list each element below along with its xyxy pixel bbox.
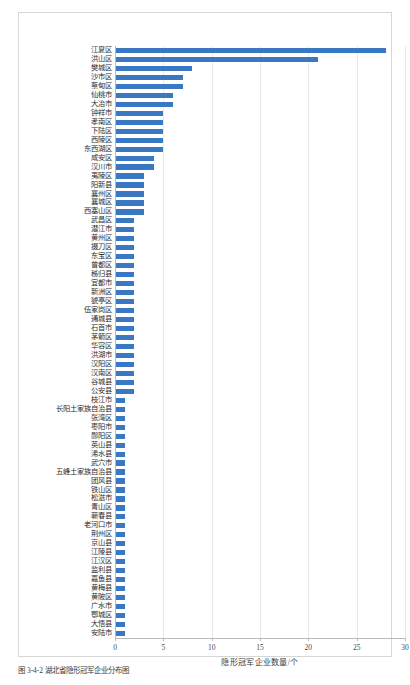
x-tick-label: 0 bbox=[113, 643, 117, 652]
bar bbox=[115, 200, 144, 205]
bar-row: 青山区 bbox=[115, 503, 405, 512]
bar bbox=[115, 604, 125, 609]
bar bbox=[115, 129, 163, 134]
figure-page: 江夏区洪山区樊城区沙市区蔡甸区仙桃市大冶市钟祥市孝南区下陆区西陵区东西湖区咸安区… bbox=[0, 0, 410, 685]
bar bbox=[115, 496, 125, 501]
bar-row: 江汉区 bbox=[115, 557, 405, 566]
bar bbox=[115, 281, 134, 286]
x-tick-label: 10 bbox=[208, 643, 216, 652]
chart-figure-frame: 江夏区洪山区樊城区沙市区蔡甸区仙桃市大冶市钟祥市孝南区下陆区西陵区东西湖区咸安区… bbox=[18, 12, 392, 657]
bar-row: 沙市区 bbox=[115, 73, 405, 82]
bar bbox=[115, 487, 125, 492]
bar-row: 黄梅县 bbox=[115, 584, 405, 593]
bar-row: 黄州区 bbox=[115, 234, 405, 243]
bar bbox=[115, 434, 125, 439]
bar bbox=[115, 290, 134, 295]
y-tick-label: 安陆市 bbox=[91, 629, 112, 638]
bar-row: 襄州区 bbox=[115, 190, 405, 199]
bar-row: 大悟县 bbox=[115, 620, 405, 629]
bar bbox=[115, 147, 163, 152]
bar bbox=[115, 245, 134, 250]
x-tick-label: 20 bbox=[305, 643, 313, 652]
bar-row: 老河口市 bbox=[115, 521, 405, 530]
x-tick-mark bbox=[212, 638, 213, 641]
bar bbox=[115, 505, 125, 510]
bar-row: 洪湖市 bbox=[115, 351, 405, 360]
bar bbox=[115, 164, 154, 169]
bar bbox=[115, 209, 144, 214]
bar bbox=[115, 613, 125, 618]
bar-row: 广水市 bbox=[115, 602, 405, 611]
bar-row: 武昌区 bbox=[115, 216, 405, 225]
bar-row: 洪山区 bbox=[115, 55, 405, 64]
bar-row: 掇刀区 bbox=[115, 243, 405, 252]
bar-row: 安陆市 bbox=[115, 629, 405, 638]
bar-row: 下陆区 bbox=[115, 127, 405, 136]
bar bbox=[115, 308, 134, 313]
bar bbox=[115, 191, 144, 196]
bar-row: 西陵区 bbox=[115, 136, 405, 145]
bar bbox=[115, 263, 134, 268]
bar-row: 夷陵区 bbox=[115, 172, 405, 181]
bar bbox=[115, 380, 134, 385]
bar-row: 谷城县 bbox=[115, 378, 405, 387]
bar bbox=[115, 550, 125, 555]
bar bbox=[115, 371, 134, 376]
x-tick-mark bbox=[115, 638, 116, 641]
bar bbox=[115, 452, 125, 457]
bar-row: 汉南区 bbox=[115, 369, 405, 378]
bar-row: 秭归县 bbox=[115, 270, 405, 279]
bar bbox=[115, 182, 144, 187]
x-tick-mark bbox=[357, 638, 358, 641]
bar bbox=[115, 93, 173, 98]
bar bbox=[115, 523, 125, 528]
bar bbox=[115, 173, 144, 178]
bar bbox=[115, 469, 125, 474]
bar bbox=[115, 335, 134, 340]
bar-row: 潜江市 bbox=[115, 225, 405, 234]
bar-row: 新洲区 bbox=[115, 288, 405, 297]
bar-row: 通城县 bbox=[115, 315, 405, 324]
x-tick-label: 5 bbox=[161, 643, 165, 652]
bar-row: 铁山区 bbox=[115, 486, 405, 495]
bar-row: 伍家岗区 bbox=[115, 306, 405, 315]
x-tick-label: 25 bbox=[353, 643, 361, 652]
bar bbox=[115, 66, 192, 71]
bar bbox=[115, 326, 134, 331]
bar-row: 孝南区 bbox=[115, 118, 405, 127]
bar bbox=[115, 156, 154, 161]
bar bbox=[115, 541, 125, 546]
bar bbox=[115, 254, 134, 259]
bar bbox=[115, 102, 173, 107]
bar-row: 监利县 bbox=[115, 566, 405, 575]
bar-row: 京山县 bbox=[115, 539, 405, 548]
bar-row: 阳新县 bbox=[115, 181, 405, 190]
bar bbox=[115, 416, 125, 421]
bar bbox=[115, 389, 134, 394]
bar bbox=[115, 236, 134, 241]
bar-row: 汉阳区 bbox=[115, 360, 405, 369]
bar-row: 蔡甸区 bbox=[115, 82, 405, 91]
bar-row: 五峰土家族自治县 bbox=[115, 468, 405, 477]
bar bbox=[115, 622, 125, 627]
bar-row: 仙桃市 bbox=[115, 91, 405, 100]
bar bbox=[115, 84, 183, 89]
bar bbox=[115, 532, 125, 537]
figure-caption: 图 3-4-2 湖北省隐形冠军企业分布图 bbox=[18, 664, 398, 682]
bar bbox=[115, 362, 134, 367]
bar-row: 江夏区 bbox=[115, 46, 405, 55]
bar bbox=[115, 514, 125, 519]
bar-row: 西塞山区 bbox=[115, 207, 405, 216]
bar-row: 张湾区 bbox=[115, 414, 405, 423]
bar bbox=[115, 353, 134, 358]
bar-row: 英山县 bbox=[115, 441, 405, 450]
x-tick-label: 15 bbox=[256, 643, 264, 652]
bar bbox=[115, 577, 125, 582]
bar-row: 长阳土家族自治县 bbox=[115, 405, 405, 414]
bar bbox=[115, 272, 134, 277]
bar bbox=[115, 568, 125, 573]
x-tick-mark bbox=[260, 638, 261, 641]
bar bbox=[115, 111, 163, 116]
bar-row: 华容区 bbox=[115, 342, 405, 351]
bar-row: 宜都市 bbox=[115, 279, 405, 288]
